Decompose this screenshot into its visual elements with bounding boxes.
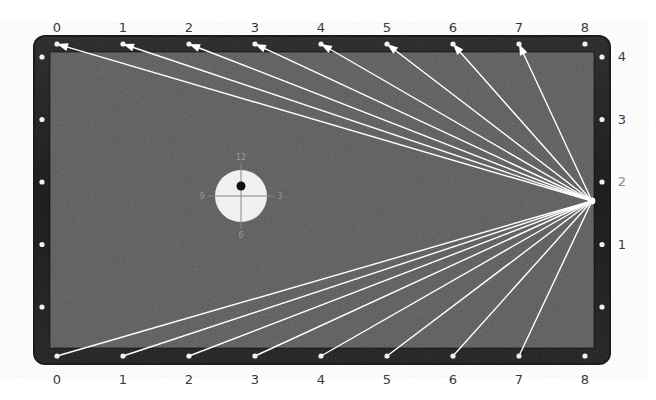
top-label-1: 1 [111,20,135,36]
right-rail-diamond-0 [599,54,604,59]
clock-mark-twelve: 12 [236,153,246,162]
top-label-6: 6 [441,20,465,36]
left-rail-diamond-3 [39,242,44,247]
top-label-5: 5 [375,20,399,36]
bottom-label-3: 3 [243,372,267,388]
top-label-4: 4 [309,20,333,36]
bottom-label-2: 2 [177,372,201,388]
top-rail-diamond-0 [54,41,59,46]
top-label-7: 7 [507,20,531,36]
clock-mark-three: 3 [277,192,282,201]
bottom-rail-diamond-3 [252,353,257,358]
clock-mark-six: 6 [238,231,243,240]
bottom-label-6: 6 [441,372,465,388]
right-label-2: 2 [610,174,634,190]
bottom-rail-diamond-5 [384,353,389,358]
top-rail-diamond-7 [516,41,521,46]
right-label-1: 3 [610,112,634,128]
top-rail-diamond-1 [120,41,125,46]
right-rail-diamond-1 [599,117,604,122]
billiards-diagram: 12369 0123456780123456784321 [0,0,656,400]
right-rail-diamond-2 [599,179,604,184]
bottom-label-7: 7 [507,372,531,388]
bottom-label-0: 0 [45,372,69,388]
bottom-rail-diamond-1 [120,353,125,358]
bottom-rail-diamond-6 [450,353,455,358]
right-rail-diamond-3 [599,242,604,247]
convergence-point [589,198,596,205]
top-rail-diamond-2 [186,41,191,46]
bottom-label-4: 4 [309,372,333,388]
bottom-rail-diamond-8 [582,353,587,358]
bottom-label-1: 1 [111,372,135,388]
right-label-3: 1 [610,237,634,253]
left-rail-diamond-1 [39,117,44,122]
bottom-rail-diamond-4 [318,353,323,358]
bottom-rail-diamond-0 [54,353,59,358]
bottom-label-5: 5 [375,372,399,388]
table-canvas: 12369 [0,0,656,400]
top-label-8: 8 [573,20,597,36]
clock-mark-nine: 9 [199,192,204,201]
right-label-0: 4 [610,49,634,65]
bottom-label-8: 8 [573,372,597,388]
top-label-2: 2 [177,20,201,36]
top-rail-diamond-8 [582,41,587,46]
top-rail-diamond-5 [384,41,389,46]
top-label-3: 3 [243,20,267,36]
top-rail-diamond-3 [252,41,257,46]
top-label-0: 0 [45,20,69,36]
top-rail-diamond-4 [318,41,323,46]
top-rail-diamond-6 [450,41,455,46]
right-rail-diamond-4 [599,304,604,309]
left-rail-diamond-2 [39,179,44,184]
bottom-rail-diamond-2 [186,353,191,358]
left-rail-diamond-0 [39,54,44,59]
bottom-rail-diamond-7 [516,353,521,358]
clock-tip-dot [237,182,246,191]
left-rail-diamond-4 [39,304,44,309]
